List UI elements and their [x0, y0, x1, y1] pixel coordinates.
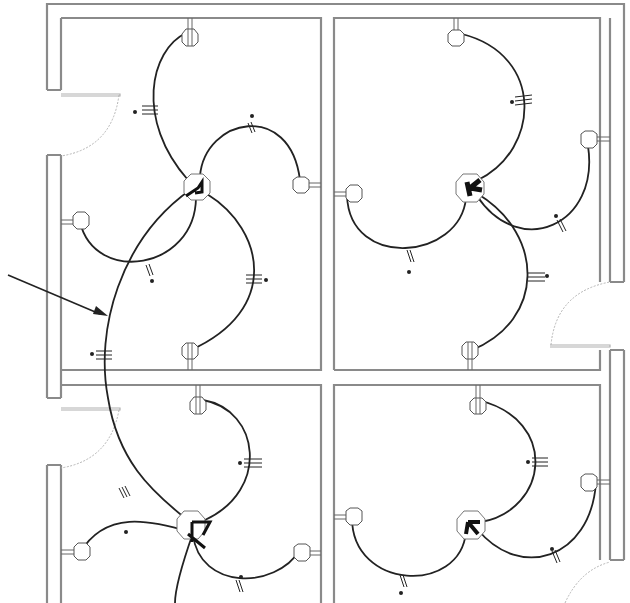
outer-wall: [47, 4, 624, 603]
fixture-icon: [334, 185, 362, 202]
wiring-diagram: Electrical lighting circuit plan — four …: [0, 0, 630, 603]
junction-hubs: [177, 174, 485, 548]
doors: [61, 94, 610, 603]
fixture-icon: [182, 343, 198, 370]
fixture-icon: [190, 385, 206, 414]
door-top-left: [61, 94, 120, 156]
fixture-icon: [581, 131, 610, 148]
junction-box-icon: [456, 174, 484, 202]
fixture-icon: [61, 212, 89, 229]
room-bottom-left-walls: [61, 385, 321, 603]
fixture-icon: [470, 385, 486, 414]
junction-box-icon: [457, 511, 485, 539]
walls: [47, 4, 624, 603]
fixture-icon: [581, 474, 610, 491]
door-right-upper: [550, 282, 610, 347]
home-run-wire: [105, 190, 190, 518]
fixture-icon: [293, 177, 321, 193]
door-right-lower: [565, 562, 610, 603]
fixture-icon: [294, 544, 321, 561]
wiring: [80, 33, 596, 603]
fixture-icon: [334, 508, 362, 525]
junction-box-icon: [184, 174, 210, 200]
fixture-icon: [448, 18, 464, 46]
fixture-icon: [462, 342, 478, 370]
annotation-arrow-icon: [8, 275, 108, 316]
room-bottom-right-walls: [334, 385, 600, 603]
fixture-icon: [61, 543, 90, 560]
fixture-icon: [182, 18, 198, 46]
